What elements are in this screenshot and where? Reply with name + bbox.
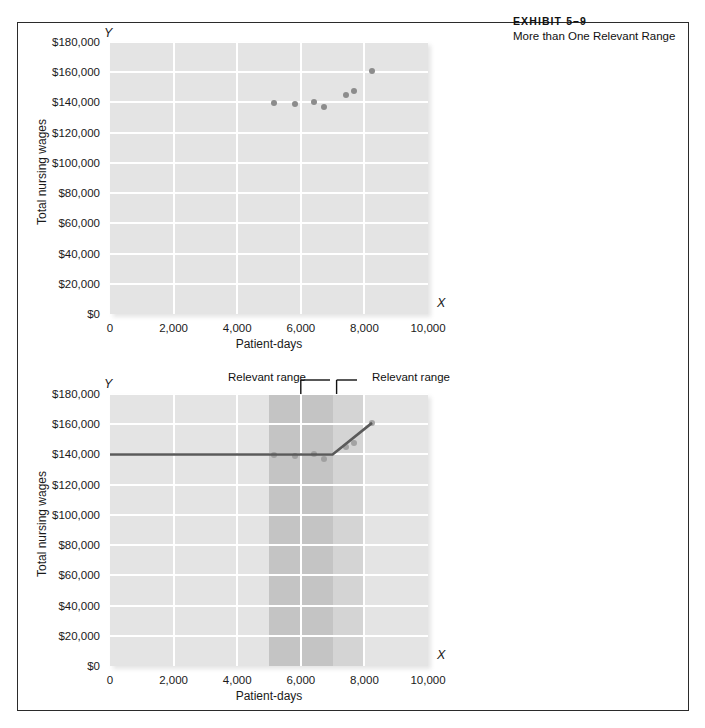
x-tick-label: 6,000 [286,322,315,334]
cost-line [110,423,372,455]
chart-bottom-plot-area [110,394,428,666]
exhibit-title: More than One Relevant Range [513,29,673,44]
chart-top-scatter: Total nursing wages Y X $0$20,000$40,000… [0,0,480,355]
x-tick-label: 0 [107,322,113,334]
x-tick-label: 4,000 [223,322,252,334]
x-tick-label: 10,000 [410,322,445,334]
chart-line-overlay [110,394,428,666]
chart-top-plot-area [110,42,428,314]
exhibit-number: EXHIBIT 5–9 [513,14,673,28]
x-tick-label: 2,000 [159,322,188,334]
exhibit-caption: EXHIBIT 5–9 More than One Relevant Range [513,14,673,44]
chart-bottom-plot-inner [110,394,428,666]
chart-top-plot-inner [110,42,428,314]
chart-bottom-step-line: Total nursing wages Y X $0$20,000$40,000… [0,345,480,705]
x-tick-label: 8,000 [350,322,379,334]
chart-line-overlay [110,42,428,314]
